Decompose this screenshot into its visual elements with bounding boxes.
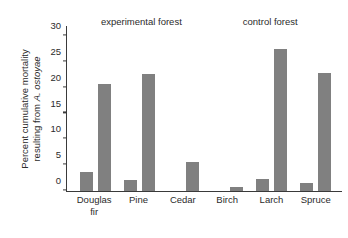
bar-groups [67,26,342,191]
x-axis-label-line1: Pine [129,194,148,205]
bar[interactable] [80,172,93,191]
y-axis-tick-label: 10 [50,123,67,134]
x-axis-label: Spruce [294,194,338,217]
x-axis-labels: DouglasfirPineCedarBirchLarchSpruce [66,194,342,217]
y-axis-title-line2-prefix: resulting from [31,101,42,161]
y-axis-tick-label: 5 [56,149,67,160]
x-axis-label: Douglasfir [72,194,116,217]
bar[interactable] [98,84,111,191]
y-axis-title: Percent cumulative mortality resulting f… [18,26,44,192]
x-axis-label: Birch [205,194,249,217]
bar[interactable] [230,187,243,191]
bar-chart-figure: experimental forest control forest Perce… [0,0,348,238]
y-axis-tick-label: 20 [50,71,67,82]
x-axis-label-line1: Spruce [301,194,331,205]
x-axis-label-line1: Birch [216,194,238,205]
bar[interactable] [300,183,313,191]
x-axis-label: Cedar [161,194,205,217]
x-axis-label-line2: fir [72,206,116,218]
x-axis-label-line1: Douglas [77,194,112,205]
bar[interactable] [142,74,155,191]
bar[interactable] [186,162,199,191]
x-axis-label: Larch [249,194,293,217]
x-axis-label: Pine [116,194,160,217]
bar[interactable] [124,180,137,191]
bar-group [294,26,338,191]
y-axis-title-species: A. ostoyae [31,56,42,101]
bar[interactable] [256,179,269,191]
bar-group [73,26,117,191]
y-axis-title-line1: Percent cumulative mortality [19,49,30,168]
plot-area: 051015202530 [66,26,342,192]
bar-group [206,26,250,191]
bar-group [250,26,294,191]
bar-group [117,26,161,191]
y-axis-tick-label: 0 [56,175,67,186]
x-axis-label-line1: Cedar [170,194,196,205]
bar-group [161,26,205,191]
y-axis-tick-label: 15 [50,97,67,108]
bar[interactable] [274,49,287,191]
y-axis-tick-label: 25 [50,46,67,57]
y-axis-tick-label: 30 [50,20,67,31]
bar[interactable] [318,73,331,191]
x-axis-label-line1: Larch [260,194,284,205]
